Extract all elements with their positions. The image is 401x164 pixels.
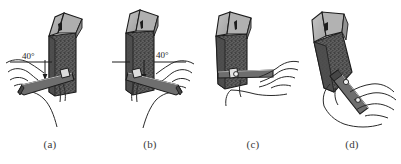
hand-finger-line-2 [172, 78, 190, 82]
panel-c: (c) [203, 0, 303, 164]
panel-d-caption: (d) [302, 138, 401, 150]
file-contact-tip [60, 68, 70, 78]
hand-finger-line-2 [10, 77, 28, 81]
panel-b-illustration: 40° [100, 0, 200, 138]
panel-b: 40° (b) [100, 0, 200, 164]
panel-a-illustration: 40° [0, 0, 100, 138]
hand-thumb-line [226, 90, 231, 106]
hand-thumb-line [156, 61, 194, 74]
hand-index-line [335, 88, 338, 105]
fingertip-contact-point-2 [356, 98, 361, 103]
file-contact-tip [132, 68, 142, 78]
figure-panel-sequence: 40° (a) [0, 0, 401, 164]
panel-d: (d) [302, 0, 401, 164]
panel-a: 40° (a) [0, 0, 100, 164]
hand-palm-line [22, 91, 57, 127]
panel-c-illustration [203, 0, 303, 138]
panel-c-caption: (c) [203, 138, 303, 150]
angle-label: 40° [22, 51, 35, 61]
fingertip-contact-point [343, 79, 348, 84]
fingertip-contact-point [234, 72, 239, 77]
hand-palm-line [143, 92, 178, 128]
block-body-shadow-facet [126, 33, 133, 95]
panel-b-caption: (b) [100, 138, 200, 150]
hand-palm-line [324, 106, 382, 127]
hand-finger-line-4 [271, 85, 291, 88]
panel-d-illustration [302, 0, 401, 138]
hand-finger-line-1 [350, 84, 394, 92]
panel-a-caption: (a) [0, 138, 100, 150]
hand-finger-line-4 [365, 115, 388, 118]
angle-label: 40° [156, 50, 169, 60]
